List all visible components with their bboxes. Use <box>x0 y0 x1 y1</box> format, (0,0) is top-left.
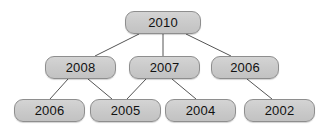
tree-node-label: 2006 <box>35 104 65 117</box>
tree-node-n4[interactable]: 2006 <box>211 56 279 79</box>
tree-node-label: 2005 <box>111 104 141 117</box>
tree-node-n2[interactable]: 2008 <box>45 56 116 79</box>
tree-diagram-canvas: 20102008200720062006200520042002 <box>0 0 327 131</box>
tree-edge-n2-n6 <box>88 79 112 99</box>
tree-edge-n2-n5 <box>50 79 68 99</box>
tree-node-label: 2007 <box>150 61 180 74</box>
tree-edge-n1-n4 <box>186 34 231 56</box>
tree-edge-n3-n7 <box>172 79 196 99</box>
tree-node-n6[interactable]: 2005 <box>90 99 161 122</box>
tree-node-label: 2006 <box>230 61 260 74</box>
tree-node-label: 2008 <box>66 61 96 74</box>
tree-node-label: 2004 <box>186 104 216 117</box>
tree-node-label: 2010 <box>148 16 178 29</box>
tree-node-n3[interactable]: 2007 <box>129 56 200 79</box>
tree-node-n1[interactable]: 2010 <box>125 11 201 34</box>
tree-node-label: 2002 <box>265 104 295 117</box>
tree-edge-n1-n2 <box>95 34 139 56</box>
tree-node-n8[interactable]: 2002 <box>244 99 315 122</box>
tree-edge-n3-n6 <box>127 79 146 99</box>
tree-node-n5[interactable]: 2006 <box>14 99 85 122</box>
tree-node-n7[interactable]: 2004 <box>165 99 236 122</box>
tree-edge-n4-n8 <box>247 79 272 99</box>
